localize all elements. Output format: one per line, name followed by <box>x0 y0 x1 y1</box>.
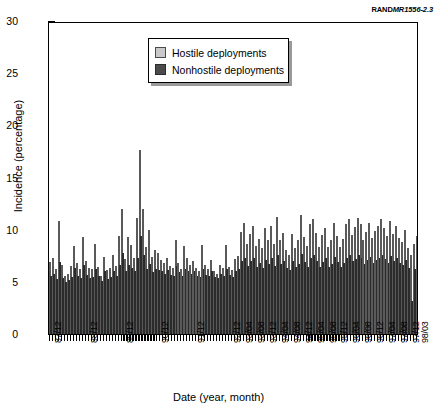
x-tick-mark <box>300 335 301 341</box>
source-label-prefix: RAND <box>371 5 392 14</box>
x-tick-mark <box>320 335 321 341</box>
x-tick-mark <box>371 335 372 341</box>
x-tick-mark <box>228 335 229 341</box>
x-tick-mark <box>261 335 262 341</box>
x-tick-mark <box>180 335 181 341</box>
x-tick-mark <box>252 335 253 341</box>
x-tick-mark <box>213 335 214 341</box>
x-tick-mark <box>317 335 318 341</box>
x-tick-mark <box>55 335 56 341</box>
x-tick-mark <box>326 335 327 341</box>
x-tick-mark <box>183 335 184 341</box>
x-tick-mark <box>168 335 169 341</box>
x-tick-mark <box>159 335 160 341</box>
x-tick-mark <box>341 335 342 341</box>
x-tick-mark <box>359 335 360 341</box>
x-tick-mark <box>103 335 104 341</box>
legend-item-nonhostile: Nonhostile deployments <box>155 61 282 78</box>
x-tick-mark <box>383 335 384 341</box>
x-tick-mark <box>323 335 324 341</box>
x-tick-mark <box>91 335 92 341</box>
x-tick-mark <box>297 335 298 341</box>
x-tick-mark <box>270 335 271 341</box>
y-tick-label: 15 <box>0 173 18 183</box>
x-tick-mark <box>398 335 399 341</box>
x-tick-mark <box>73 335 74 341</box>
x-tick-mark <box>303 335 304 341</box>
x-tick-mark <box>332 335 333 341</box>
y-tick-label: 25 <box>0 68 18 78</box>
x-tick-mark <box>350 335 351 341</box>
x-tick-mark <box>177 335 178 341</box>
x-tick-mark <box>138 335 139 341</box>
x-tick-mark <box>58 335 59 341</box>
x-tick-mark <box>189 335 190 341</box>
x-tick-mark <box>362 335 363 341</box>
x-tick-mark <box>285 335 286 341</box>
x-tick-mark <box>88 335 89 341</box>
x-tick-mark <box>240 335 241 341</box>
x-tick-mark <box>237 335 238 341</box>
x-tick-label: 98/03 <box>420 321 430 343</box>
x-tick-mark <box>338 335 339 341</box>
legend-swatch-hostile <box>155 47 166 58</box>
x-tick-mark <box>311 335 312 341</box>
x-tick-mark <box>162 335 163 341</box>
x-tick-mark <box>210 335 211 341</box>
y-tick-label: 0 <box>0 329 18 339</box>
x-tick-mark <box>79 335 80 341</box>
y-tick-label: 10 <box>0 225 18 235</box>
legend-item-hostile: Hostile deployments <box>155 44 282 61</box>
x-tick-mark <box>255 335 256 341</box>
x-tick-mark <box>282 335 283 341</box>
x-tick-mark <box>126 335 127 341</box>
x-tick-mark <box>410 335 411 341</box>
x-tick-mark <box>67 335 68 341</box>
x-tick-mark <box>231 335 232 341</box>
x-tick-mark <box>314 335 315 341</box>
y-tick-label: 20 <box>0 120 18 130</box>
x-tick-mark <box>222 335 223 341</box>
x-tick-mark <box>97 335 98 341</box>
x-tick-mark <box>416 335 417 341</box>
x-tick-mark <box>279 335 280 341</box>
x-tick-mark <box>225 335 226 341</box>
x-tick-mark <box>288 335 289 341</box>
x-tick-mark <box>174 335 175 341</box>
chart-figure: RANDMR1556-2.3 Incidence (percentage) 05… <box>0 0 437 414</box>
y-tick-label: 5 <box>0 277 18 287</box>
source-label-id: MR1556-2.3 <box>393 5 433 14</box>
x-tick-mark <box>356 335 357 341</box>
x-tick-mark <box>347 335 348 341</box>
x-tick-mark <box>294 335 295 341</box>
x-tick-mark <box>121 335 122 341</box>
x-tick-mark <box>243 335 244 341</box>
x-tick-mark <box>112 335 113 341</box>
x-tick-mark <box>123 335 124 341</box>
x-tick-mark <box>132 335 133 341</box>
x-tick-mark <box>147 335 148 341</box>
x-tick-mark <box>219 335 220 341</box>
x-tick-mark <box>389 335 390 341</box>
x-tick-mark <box>234 335 235 341</box>
legend-label-hostile: Hostile deployments <box>172 47 267 59</box>
x-tick-mark <box>258 335 259 341</box>
x-tick-mark <box>115 335 116 341</box>
x-tick-mark <box>207 335 208 341</box>
x-tick-mark <box>153 335 154 341</box>
x-tick-mark <box>404 335 405 341</box>
x-tick-mark <box>118 335 119 341</box>
x-tick-mark <box>76 335 77 341</box>
x-tick-mark <box>249 335 250 341</box>
x-tick-mark <box>306 335 307 341</box>
x-tick-mark <box>264 335 265 341</box>
x-tick-mark <box>52 335 53 341</box>
x-tick-mark <box>192 335 193 341</box>
x-tick-mark <box>273 335 274 341</box>
x-tick-mark <box>198 335 199 341</box>
x-tick-mark <box>82 335 83 341</box>
x-tick-mark <box>144 335 145 341</box>
x-tick-mark <box>413 335 414 341</box>
x-tick-mark <box>195 335 196 341</box>
x-tick-mark <box>70 335 71 341</box>
